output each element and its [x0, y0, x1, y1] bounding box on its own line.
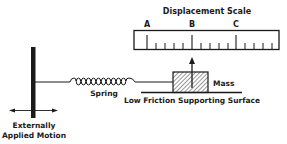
surface-label: Low Friction Supporting Surface [124, 96, 260, 105]
mass-block [173, 72, 208, 93]
scale-mark-c: C [233, 20, 239, 29]
motion-label-line1: Externally [13, 121, 56, 130]
scale-title: Displacement Scale [163, 7, 252, 16]
spring-label: Spring [90, 89, 118, 98]
spring [70, 78, 135, 85]
mass-label: Mass [213, 79, 235, 88]
driving-bar [31, 47, 36, 118]
motion-label-line2: Applied Motion [2, 131, 66, 140]
displacement-scale [134, 31, 279, 50]
spring-mass-diagram: Displacement Scale A B C Mass Low Fricti… [0, 0, 287, 144]
scale-mark-b: B [189, 20, 195, 29]
scale-mark-a: A [144, 20, 151, 29]
